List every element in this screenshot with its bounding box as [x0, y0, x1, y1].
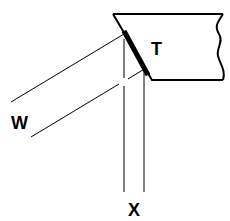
incident-beam-lower-edge-b — [128, 68, 146, 79]
incident-beam-lower-edge-a — [31, 84, 119, 137]
incident-beam-upper-edge — [11, 34, 124, 102]
label-target: T — [151, 39, 162, 59]
incident-beam — [11, 34, 146, 137]
diagram-canvas: T W X — [0, 0, 230, 221]
target-break-edge — [217, 14, 224, 80]
label-incident: W — [11, 113, 28, 133]
target-block — [113, 14, 224, 80]
target-outline — [113, 14, 223, 80]
label-output: X — [128, 200, 140, 220]
